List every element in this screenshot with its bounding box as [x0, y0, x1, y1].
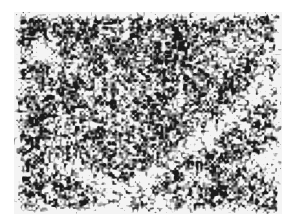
micrograph-texture — [14, 12, 282, 214]
image-frame — [0, 0, 296, 224]
